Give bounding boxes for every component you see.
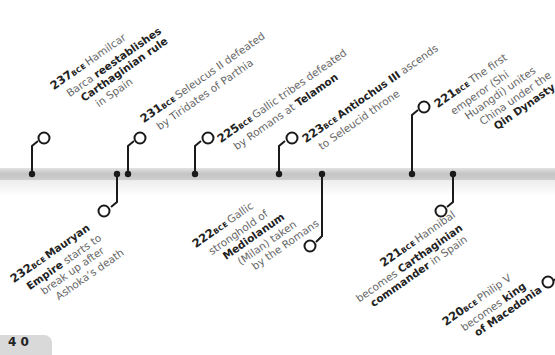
marker-220 xyxy=(543,277,554,288)
connector-222 xyxy=(316,174,322,242)
marker-221a xyxy=(419,102,430,113)
connector-237 xyxy=(32,141,38,174)
connector-232 xyxy=(111,174,117,207)
marker-225 xyxy=(203,133,214,144)
marker-232 xyxy=(99,206,110,217)
connector-221b xyxy=(447,174,453,207)
marker-223 xyxy=(287,133,298,144)
marker-237 xyxy=(39,133,50,144)
marker-222 xyxy=(305,241,316,252)
page-number-tab: 4 0 xyxy=(0,335,52,355)
connector-225 xyxy=(195,141,201,174)
page-number: 4 0 xyxy=(8,335,29,349)
connector-221a xyxy=(412,110,418,174)
connector-231 xyxy=(128,141,134,174)
connector-220 xyxy=(554,270,555,280)
connector-223 xyxy=(279,141,285,174)
marker-231 xyxy=(135,133,146,144)
